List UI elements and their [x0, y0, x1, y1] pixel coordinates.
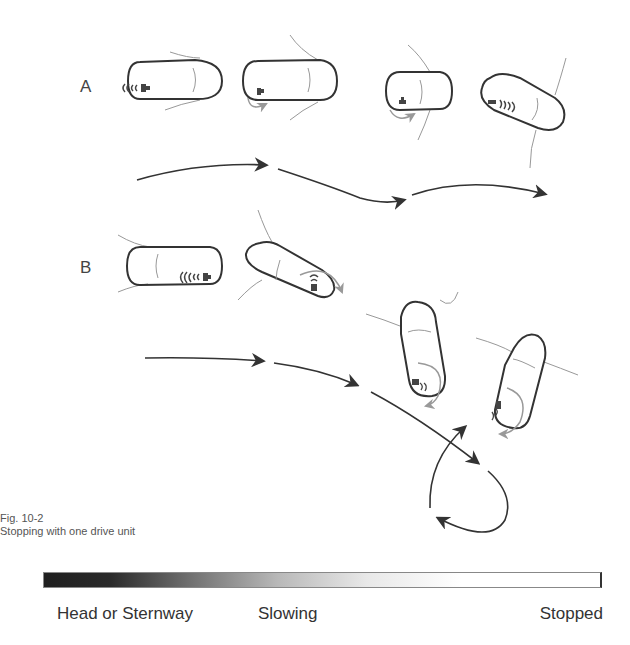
row-a-label: A — [80, 77, 91, 97]
drive-unit-icon — [311, 284, 317, 291]
drive-unit-icon — [141, 84, 146, 92]
vessel-a2 — [243, 35, 337, 120]
thruster-wash-icon — [500, 100, 515, 112]
figure-caption: Fig. 10-2 Stopping with one drive unit — [0, 512, 135, 538]
thruster-wash-icon — [420, 383, 426, 391]
thruster-wash-icon — [310, 275, 318, 281]
speed-gradient-legend — [43, 572, 602, 588]
turn-arrow-icon — [300, 271, 342, 292]
thruster-wash-icon — [181, 272, 200, 283]
drive-unit-icon — [203, 273, 208, 281]
row-b-path — [145, 358, 508, 532]
vessel-a3 — [386, 45, 452, 140]
drive-unit-icon — [412, 379, 419, 385]
diagram-canvas — [0, 0, 630, 645]
vessel-b1 — [118, 235, 222, 292]
vessel-a4 — [481, 58, 566, 168]
row-a-path — [137, 165, 545, 203]
drive-unit-icon — [399, 100, 406, 104]
row-b-vessels — [118, 210, 578, 434]
legend-mid-label: Slowing — [258, 604, 318, 624]
vessel-b4 — [476, 335, 578, 435]
figure-title: Stopping with one drive unit — [0, 525, 135, 538]
drive-unit-icon — [496, 401, 501, 409]
drive-unit-icon — [488, 100, 496, 104]
turn-arrow-icon — [390, 110, 414, 118]
vessel-b3 — [366, 292, 458, 406]
legend-start-label: Head or Sternway — [57, 604, 193, 624]
figure-number: Fig. 10-2 — [0, 512, 135, 525]
row-b-label: B — [80, 258, 91, 278]
row-a-vessels — [123, 35, 566, 168]
vessel-b2 — [238, 210, 342, 300]
legend-end-label: Stopped — [451, 604, 603, 624]
vessel-a1 — [123, 52, 222, 110]
drive-unit-icon — [257, 88, 261, 95]
